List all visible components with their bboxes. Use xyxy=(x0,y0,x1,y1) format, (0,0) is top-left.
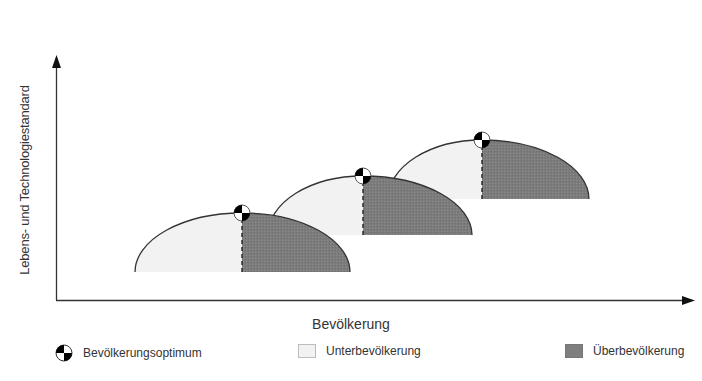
optimum-marker-icon xyxy=(355,168,371,184)
hills xyxy=(135,132,589,272)
optimum-marker-icon xyxy=(474,132,490,148)
legend-item-under: Unterbevölkerung xyxy=(298,344,421,358)
x-axis-label: Bevölkerung xyxy=(0,316,702,332)
legend-label-under: Unterbevölkerung xyxy=(326,344,421,358)
over-swatch-icon xyxy=(565,344,583,358)
y-axis-arrow-icon xyxy=(52,55,61,68)
optimum-marker-icon xyxy=(234,205,250,221)
y-axis-label: Lebens- und Technologiestandard xyxy=(17,85,32,274)
legend-label-over: Überbevölkerung xyxy=(593,344,684,358)
legend-item-optimum: Bevölkerungsoptimum xyxy=(55,344,202,362)
under-swatch-icon xyxy=(298,344,316,358)
legend: Bevölkerungsoptimum Unterbevölkerung Übe… xyxy=(0,344,702,368)
legend-label-optimum: Bevölkerungsoptimum xyxy=(83,346,202,360)
legend-item-over: Überbevölkerung xyxy=(565,344,684,358)
quartered-circle-icon xyxy=(55,344,73,362)
underpopulation-area xyxy=(135,213,242,272)
x-axis-arrow-icon xyxy=(682,296,695,305)
overpopulation-area xyxy=(482,140,589,199)
